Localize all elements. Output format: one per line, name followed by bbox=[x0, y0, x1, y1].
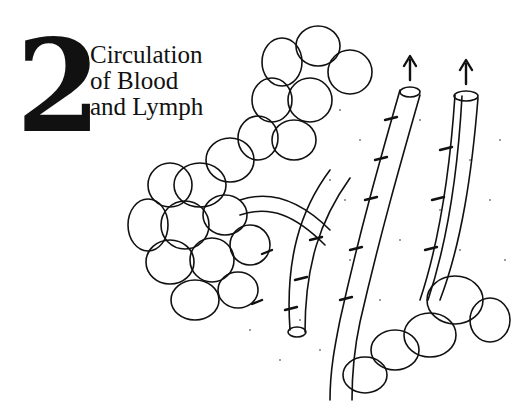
vessel-left bbox=[240, 170, 350, 337]
tissue-cells-icon bbox=[128, 26, 510, 393]
vessels-illustration bbox=[0, 0, 521, 408]
flow-arrows-icon bbox=[252, 56, 472, 310]
stipple-texture bbox=[249, 109, 506, 361]
vessel-middle bbox=[330, 87, 420, 400]
lymph-vessel bbox=[420, 91, 478, 300]
